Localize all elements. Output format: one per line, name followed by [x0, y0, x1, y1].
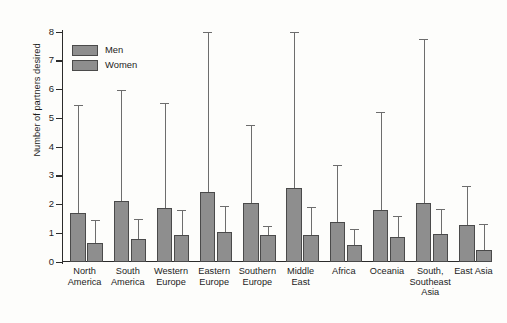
bar-women-8: [433, 234, 449, 262]
error-cap-women-1: [134, 219, 143, 220]
error-cap-women-9: [479, 224, 488, 225]
bar-chart: Number of partners desired 012345678 Nor…: [0, 0, 507, 323]
error-bar-men-3: [208, 33, 209, 192]
error-bar-men-7: [381, 113, 382, 211]
error-bar-men-4: [251, 126, 252, 203]
legend-swatch-women: [72, 60, 98, 71]
error-bar-women-5: [311, 208, 312, 235]
y-tick-label-7: 7: [40, 55, 54, 65]
bar-men-5: [286, 188, 302, 262]
bar-men-4: [243, 203, 259, 262]
error-bar-men-0: [78, 106, 79, 213]
legend-label-women: Women: [105, 60, 137, 69]
bar-women-0: [87, 243, 103, 262]
bar-women-5: [303, 235, 319, 262]
error-cap-women-8: [436, 209, 445, 210]
y-tick-7: [56, 60, 63, 61]
y-tick-6: [56, 89, 63, 90]
error-cap-men-7: [376, 112, 385, 113]
legend-label-men: Men: [105, 45, 123, 54]
legend-item-men: Men: [72, 44, 137, 56]
error-cap-women-3: [220, 206, 229, 207]
bar-men-3: [200, 192, 216, 262]
error-cap-men-8: [419, 39, 428, 40]
bar-men-0: [70, 213, 86, 262]
bar-men-6: [330, 222, 346, 262]
error-cap-women-4: [263, 226, 272, 227]
bar-women-4: [260, 235, 276, 262]
error-cap-women-5: [307, 207, 316, 208]
error-bar-women-1: [138, 220, 139, 239]
legend-swatch-men: [72, 45, 98, 56]
bar-men-8: [416, 203, 432, 262]
error-cap-men-1: [117, 90, 126, 91]
error-bar-men-8: [424, 40, 425, 203]
y-tick-3: [56, 175, 63, 176]
error-cap-women-6: [350, 229, 359, 230]
error-cap-women-7: [393, 216, 402, 217]
bar-women-9: [476, 250, 492, 262]
error-bar-men-9: [467, 187, 468, 225]
bar-women-3: [217, 232, 233, 262]
y-tick-label-8: 8: [40, 27, 54, 37]
bar-men-7: [373, 210, 389, 262]
y-tick-label-1: 1: [40, 228, 54, 238]
bar-men-9: [459, 225, 475, 262]
error-bar-men-1: [121, 91, 122, 201]
y-tick-label-2: 2: [40, 199, 54, 209]
y-tick-label-4: 4: [40, 142, 54, 152]
y-tick-2: [56, 204, 63, 205]
bar-women-6: [347, 245, 363, 262]
error-cap-men-6: [333, 165, 342, 166]
y-tick-label-5: 5: [40, 113, 54, 123]
y-tick-0: [56, 262, 63, 263]
error-bar-men-2: [165, 104, 166, 208]
bar-men-2: [157, 208, 173, 262]
error-cap-women-2: [177, 210, 186, 211]
bar-men-1: [114, 201, 130, 262]
x-label-9: East Asia: [446, 266, 501, 277]
error-bar-women-8: [441, 210, 442, 234]
y-tick-label-0: 0: [40, 257, 54, 267]
error-bar-women-9: [484, 225, 485, 250]
error-cap-men-2: [160, 103, 169, 104]
error-cap-men-3: [203, 32, 212, 33]
error-bar-women-3: [225, 207, 226, 232]
error-cap-women-0: [91, 220, 100, 221]
error-bar-women-2: [182, 211, 183, 235]
y-tick-label-6: 6: [40, 84, 54, 94]
error-bar-men-6: [337, 166, 338, 222]
error-bar-women-4: [268, 227, 269, 235]
error-bar-women-0: [95, 221, 96, 243]
bar-women-7: [390, 237, 406, 262]
error-cap-men-9: [462, 186, 471, 187]
bar-women-2: [174, 235, 190, 262]
y-tick-4: [56, 147, 63, 148]
error-bar-women-7: [398, 217, 399, 237]
error-cap-men-5: [290, 32, 299, 33]
error-cap-men-0: [74, 105, 83, 106]
error-bar-women-6: [354, 230, 355, 246]
chart-legend: Men Women: [72, 44, 137, 74]
bar-women-1: [131, 239, 147, 262]
y-tick-1: [56, 233, 63, 234]
y-tick-5: [56, 118, 63, 119]
legend-item-women: Women: [72, 59, 137, 71]
error-bar-men-5: [294, 33, 295, 188]
y-tick-label-3: 3: [40, 170, 54, 180]
y-tick-8: [56, 32, 63, 33]
error-cap-men-4: [246, 125, 255, 126]
